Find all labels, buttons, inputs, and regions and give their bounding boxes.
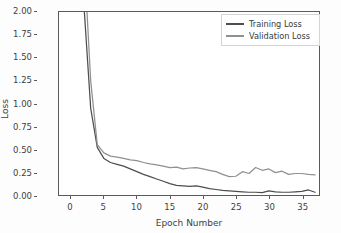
- x-tick-mark: [103, 196, 104, 199]
- y-tick-label: 2.00: [13, 7, 32, 16]
- legend-label-training-loss: Training Loss: [249, 20, 302, 29]
- y-tick-label: 1.00: [13, 99, 32, 108]
- x-tick-label: 20: [198, 203, 209, 212]
- x-tick-mark: [203, 196, 204, 199]
- legend-item-training-loss: Training Loss: [226, 18, 315, 30]
- y-axis-label: Loss: [0, 99, 10, 119]
- x-tick-label: 10: [131, 203, 142, 212]
- y-tick-label: 0.75: [13, 122, 32, 131]
- y-tick-mark: [34, 150, 37, 151]
- legend-swatch-validation-loss: [226, 35, 244, 37]
- legend: Training Loss Validation Loss: [221, 14, 320, 46]
- figure-canvas: 0.000.250.500.751.001.251.501.752.00 Los…: [0, 0, 341, 233]
- x-tick-label: 30: [264, 203, 275, 212]
- x-tick-mark: [170, 196, 171, 199]
- y-tick-label: 0.50: [13, 146, 32, 155]
- x-tick-mark: [269, 196, 270, 199]
- y-tick-label: 0.25: [13, 169, 32, 178]
- y-tick-mark: [34, 11, 37, 12]
- y-tick-label: 1.50: [13, 53, 32, 62]
- x-tick-label: 5: [100, 203, 105, 212]
- legend-item-validation-loss: Validation Loss: [226, 30, 315, 42]
- y-tick-mark: [34, 80, 37, 81]
- legend-swatch-training-loss: [226, 23, 244, 25]
- x-tick-mark: [70, 196, 71, 199]
- x-tick-mark: [236, 196, 237, 199]
- y-tick-label: 1.75: [13, 30, 32, 39]
- y-tick-label: 1.25: [13, 76, 32, 85]
- x-tick-label: 0: [67, 203, 72, 212]
- y-tick-mark: [34, 173, 37, 174]
- x-tick-label: 15: [164, 203, 175, 212]
- x-tick-mark: [303, 196, 304, 199]
- x-tick-mark: [136, 196, 137, 199]
- y-tick-mark: [34, 104, 37, 105]
- y-tick-mark: [34, 57, 37, 58]
- x-tick-label: 25: [231, 203, 242, 212]
- x-tick-label: 35: [297, 203, 308, 212]
- y-tick-mark: [34, 34, 37, 35]
- x-axis-label: Epoch Number: [156, 218, 223, 228]
- y-tick-mark: [34, 127, 37, 128]
- legend-label-validation-loss: Validation Loss: [249, 32, 310, 41]
